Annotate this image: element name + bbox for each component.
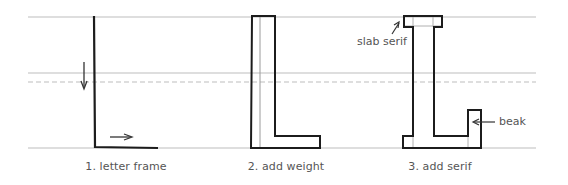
beak-arrow-icon xyxy=(473,119,495,125)
caption-step-2: 2. add weight xyxy=(248,160,325,173)
guidelines xyxy=(28,17,536,148)
caption-step-3: 3. add serif xyxy=(408,160,471,173)
slab-serif-arrow-icon xyxy=(392,22,399,34)
caption-step-1: 1. letter frame xyxy=(85,160,166,173)
diagram-canvas xyxy=(0,0,568,185)
down-arrow-icon xyxy=(81,62,87,89)
beak-label: beak xyxy=(499,115,526,128)
right-arrow-icon xyxy=(110,134,132,140)
letter-construction-diagram: slab serif beak 1. letter frame 2. add w… xyxy=(0,0,568,185)
slab-serif-label: slab serif xyxy=(357,35,407,48)
